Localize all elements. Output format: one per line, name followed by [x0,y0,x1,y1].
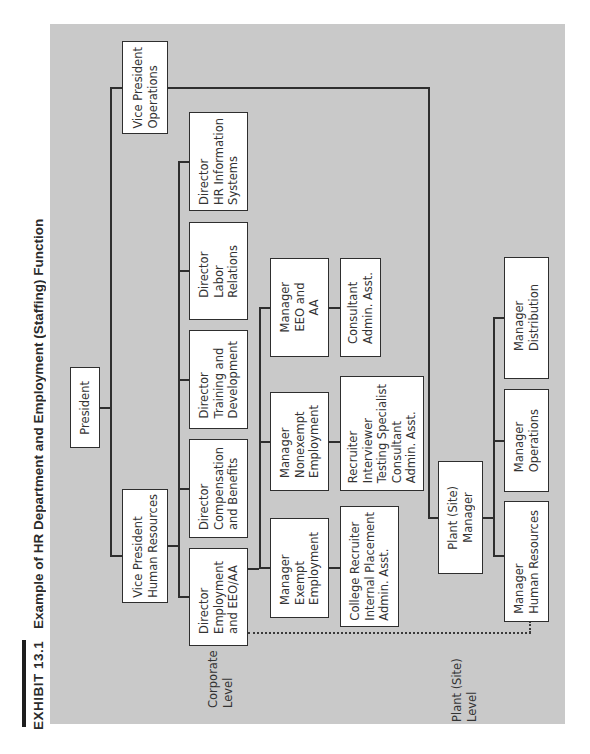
connector [493,317,504,319]
connector [178,488,189,490]
node-manager-exempt[interactable]: Manager Exempt Employment [270,518,329,618]
node-label: Director Training and Development [197,341,241,418]
node-vp-human-resources[interactable]: Vice President Human Resources [122,489,168,603]
node-plant-manager-hr[interactable]: Manager Human Resources [504,501,549,622]
connector [328,441,340,443]
exhibit-accent-bar [22,640,26,727]
connector [248,568,259,570]
level-label-corporate: Corporate Level [206,648,235,708]
node-label: Director Employment and EEO/AA [197,561,241,634]
node-staff-eeo[interactable]: Consultant Admin. Asst. [340,258,381,357]
connector [99,407,111,409]
connector [259,441,270,443]
dotted-link [248,632,531,634]
node-plant-manager-distribution[interactable]: Manager Distribution [504,257,549,379]
connector [259,307,261,569]
connector [178,596,189,598]
node-manager-nonexempt[interactable]: Manager Nonexempt Employment [270,392,329,491]
node-label: Plant (Site) Manager [446,486,475,550]
node-staff-exempt[interactable]: College Recruiter Internal Placement Adm… [340,506,399,627]
connector [167,87,429,89]
node-label: Director HR Information Systems [197,118,241,205]
connector [428,87,430,518]
node-label: Director Labor Relations [197,245,241,298]
node-vp-operations[interactable]: Vice President Operations [122,41,168,134]
node-director-hris[interactable]: Director HR Information Systems [189,112,248,211]
node-staff-nonexempt[interactable]: Recruiter Interviewer Testing Specialist… [340,376,424,491]
node-label: Manager Human Resources [512,510,541,614]
connector [493,440,504,442]
connector [493,317,495,556]
exhibit-title: EXHIBIT 13.1 Example of HR Department an… [27,40,49,730]
node-director-training[interactable]: Director Training and Development [189,330,248,429]
node-director-compensation[interactable]: Director Compensation and Benefits [189,439,248,538]
connector [428,517,438,519]
connector [493,555,504,557]
node-label: College Recruiter Internal Placement Adm… [348,512,392,621]
node-label: Manager EEO and AA [278,282,322,332]
level-label-plant: Plant (Site) Level [450,648,479,722]
connector [110,87,122,89]
connector [259,307,270,309]
node-label: President [78,381,93,435]
node-label: Vice President Human Resources [131,494,160,598]
node-label: Director Compensation and Benefits [197,447,241,530]
exhibit-caption: Example of HR Department and Employment … [31,218,46,628]
node-manager-eeo[interactable]: Manager EEO and AA [270,258,329,357]
dotted-link [529,621,531,633]
node-president[interactable]: President [70,367,100,448]
connector [178,379,189,381]
node-label: Manager Nonexempt Employment [278,405,322,478]
node-label: Recruiter Interviewer Testing Specialist… [346,384,419,483]
exhibit-number: EXHIBIT 13.1 [31,641,46,730]
connector [259,567,270,569]
node-label: Manager Operations [512,409,541,472]
node-label: Manager Exempt Employment [278,532,322,605]
node-label: Manager Distribution [512,284,541,351]
connector [110,555,122,557]
connector [178,161,189,163]
connector [328,567,340,569]
connector [328,307,340,309]
node-plant-manager-operations[interactable]: Manager Operations [504,389,549,492]
node-plant-manager[interactable]: Plant (Site) Manager [438,461,483,574]
node-director-employment[interactable]: Director Employment and EEO/AA [189,548,248,646]
node-label: Vice President Operations [131,47,160,129]
connector [178,270,189,272]
node-director-labor-relations[interactable]: Director Labor Relations [189,222,248,320]
node-label: Consultant Admin. Asst. [346,272,375,344]
connector [110,87,112,557]
